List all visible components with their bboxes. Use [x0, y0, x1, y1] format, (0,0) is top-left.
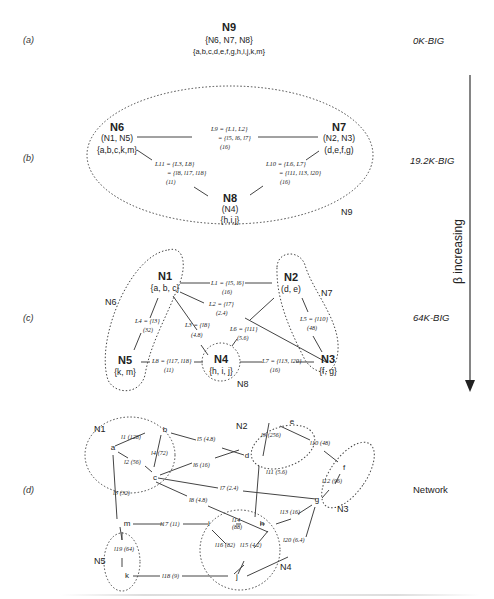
- level-d: Network: [413, 485, 448, 495]
- node-g: g: [315, 496, 319, 504]
- link-l6: l6 (16): [193, 462, 210, 469]
- link-L3: L3 = {l8}: [185, 322, 210, 329]
- node-N8-children: (N4): [222, 205, 239, 214]
- link-l5: l5 (4.8): [197, 436, 215, 443]
- link-L9-line1: L9 = {L1, L2}: [211, 126, 248, 133]
- node-b: b: [163, 426, 167, 434]
- link-L8: L8 = {l17, l18}: [152, 358, 192, 365]
- node-N3: N3: [321, 354, 335, 365]
- link-l1: l1 (128): [121, 434, 141, 441]
- node-N2: N2: [284, 272, 298, 283]
- node-N4-members: {h, i, j}: [209, 367, 233, 376]
- link-L7-weight: (16): [270, 367, 280, 373]
- node-N7: N7: [332, 122, 346, 133]
- node-N5-members: {k, m}: [114, 368, 136, 377]
- link-l2: l2 (56): [124, 459, 141, 466]
- link-l14: l14(88): [232, 517, 242, 530]
- node-N6-members: {a,b,c,k,m}: [97, 146, 137, 155]
- link-L1-weight: (16): [222, 289, 232, 295]
- cluster-label-N8: N8: [237, 380, 249, 389]
- link-l15: l15 (4.2): [240, 542, 261, 549]
- panel-label-a: (a): [23, 36, 34, 45]
- link-l8: l8 (4.8): [189, 497, 207, 504]
- diagram-lines: [0, 0, 494, 599]
- node-N1-members: {a, b, c}: [151, 284, 180, 293]
- panel-label-d: (d): [23, 486, 34, 495]
- link-L10-weight: (16): [280, 179, 290, 185]
- level-a: 0K-BIG: [413, 36, 444, 46]
- link-l18: l18 (9): [162, 573, 179, 580]
- node-N7-members: (d,e,f,g): [324, 146, 353, 155]
- node-N2-members: (d, e): [281, 285, 301, 294]
- node-c: c: [153, 474, 157, 482]
- link-L9-weight: (16): [220, 144, 230, 150]
- node-i: i: [208, 520, 210, 528]
- cluster-label-N1: N1: [94, 425, 106, 434]
- node-N9-children: {N6, N7, N8}: [205, 36, 253, 45]
- node-N8: N8: [223, 193, 237, 204]
- cluster-label-N7: N7: [321, 289, 333, 298]
- beta-axis-label: β increasing: [452, 219, 464, 284]
- link-L1: L1 = {l5, l6}: [211, 280, 244, 287]
- cluster-label-N5: N5: [94, 557, 106, 566]
- link-l19: l19 (64): [114, 546, 134, 553]
- link-L6-weight: (5.6): [237, 335, 249, 341]
- link-l20: l20 (6.4): [283, 537, 304, 544]
- clipped-caption-line: [60, 594, 480, 596]
- node-h: h: [260, 520, 264, 528]
- hierarchy-figure: (a) (b) (c) (d) 0K-BIG 19.2K-BIG 64K-BIG…: [0, 0, 494, 599]
- link-L2-weight: (2.4): [216, 310, 228, 316]
- link-L3-weight: (4.8): [191, 332, 203, 338]
- link-L10-line2: = {l11, l13, l20}: [279, 170, 321, 177]
- cluster-label-N4: N4: [280, 563, 292, 572]
- cluster-label-N2: N2: [236, 422, 248, 431]
- link-l11: l11 (5.6): [266, 469, 287, 476]
- cluster-label-N6: N6: [105, 298, 117, 307]
- link-L5: L5 = {l10}: [300, 316, 328, 323]
- link-L2: L2 = {l7}: [209, 301, 234, 308]
- link-l4: l4 (72): [151, 450, 168, 457]
- panel-label-b: (b): [23, 154, 34, 163]
- node-m: m: [124, 520, 131, 528]
- panel-label-c: (c): [23, 314, 34, 323]
- node-N1: N1: [158, 271, 172, 282]
- level-c: 64K-BIG: [413, 313, 449, 323]
- link-l16: l16 (82): [215, 542, 235, 549]
- link-l10: l10 (48): [310, 440, 330, 447]
- node-e: e: [290, 418, 294, 426]
- node-N9-members: {a,b,c,d,e,f,g,h,i,j,k,m}: [193, 48, 265, 56]
- cluster-label-N9: N9: [341, 208, 353, 217]
- link-L4: L4 = {l3}: [135, 318, 160, 325]
- node-N9: N9: [222, 22, 236, 33]
- node-N6-children: (N1, N5): [101, 134, 133, 143]
- link-L6: L6 = {l11}: [230, 326, 258, 333]
- node-N3-members: {f, g}: [319, 367, 337, 376]
- link-l17: l17 (11): [160, 521, 180, 528]
- node-j: j: [236, 573, 238, 581]
- node-d: d: [245, 452, 249, 460]
- link-l3: l3 (32): [113, 490, 130, 497]
- link-L11-weight: (11): [166, 179, 176, 185]
- link-L9-line2: = {l5, l6, l7}: [218, 135, 251, 142]
- link-l7: l7 (2.4): [220, 485, 238, 492]
- node-N7-children: (N2, N3): [323, 134, 355, 143]
- node-k: k: [125, 572, 129, 580]
- link-l13: l13 (16): [280, 509, 300, 516]
- level-b: 19.2K-BIG: [410, 156, 454, 166]
- link-L7: L7 = {l13, l20}: [262, 358, 302, 365]
- node-N6: N6: [110, 122, 124, 133]
- link-L5-weight: (48): [307, 325, 317, 331]
- cluster-label-N3: N3: [337, 505, 349, 514]
- link-L11-line2: = {l8, l17, l18}: [167, 170, 206, 177]
- link-L10-line1: L10 = {L6, L7}: [266, 161, 306, 168]
- node-a: a: [111, 444, 115, 452]
- link-L11-line1: L11 = {L3, L8}: [155, 161, 194, 168]
- link-l12: l12 (96): [322, 478, 342, 485]
- link-L4-weight: (32): [143, 327, 153, 333]
- node-N8-members: {h,i,j}: [221, 216, 240, 225]
- node-N5: N5: [118, 355, 132, 366]
- link-l9: l9 (256): [261, 432, 281, 439]
- node-N4: N4: [214, 354, 228, 365]
- link-L8-weight: (11): [164, 367, 174, 373]
- node-f: f: [343, 464, 345, 472]
